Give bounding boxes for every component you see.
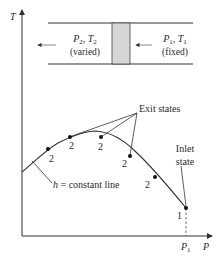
- inlet-state-annotation: Inlet state: [176, 143, 195, 206]
- inlet-label-line2: state: [176, 156, 195, 167]
- exit-states-label: Exit states: [139, 103, 180, 114]
- inlet-state-props: P1, T1: [162, 33, 187, 46]
- t-axis-label: T: [10, 11, 17, 22]
- point-label-1: 1: [177, 210, 182, 221]
- h-constant-label: h = constant line: [53, 179, 120, 190]
- porous-plug: [112, 23, 130, 64]
- p-axis-label: P: [202, 241, 209, 252]
- exit-state-point: [68, 135, 72, 139]
- leader-line: [130, 113, 137, 155]
- point-label-2: 2: [98, 141, 103, 152]
- inlet-state-note: (fixed): [162, 47, 188, 58]
- constant-enthalpy-curve: [22, 131, 186, 208]
- point-label-2: 2: [49, 153, 54, 164]
- leader-line: [181, 166, 186, 206]
- h-constant-annotation: h = constant line: [32, 161, 120, 190]
- exit-state-note: (varied): [70, 47, 100, 58]
- exit-state-point: [46, 147, 50, 151]
- point-label-2: 2: [122, 158, 127, 169]
- state-points: 2 2 2 2 2 1: [46, 135, 188, 221]
- p1-tick-label: P1: [180, 241, 191, 254]
- leader-line: [32, 161, 52, 183]
- leader-line: [101, 113, 137, 137]
- inlet-label-line1: Inlet: [176, 143, 195, 154]
- inlet-state-point: [184, 206, 188, 210]
- point-label-2: 2: [145, 179, 150, 190]
- throttling-diagram: P2, T2 (varied) P1, T1 (fixed) T P P1 2 …: [0, 0, 224, 259]
- point-label-2: 2: [69, 140, 74, 151]
- exit-states-annotation: Exit states: [72, 103, 180, 155]
- exit-state-props: P2, T2: [72, 33, 97, 46]
- exit-state-point: [153, 175, 157, 179]
